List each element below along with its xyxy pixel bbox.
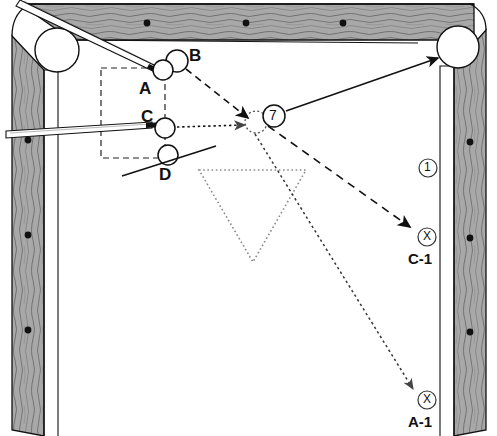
- ball-C[interactable]: [155, 118, 175, 138]
- ball-A[interactable]: [153, 60, 173, 80]
- pool-table-svg: [0, 0, 497, 436]
- diamond-right-1: [467, 139, 474, 146]
- pocket-top-right: [437, 26, 479, 68]
- object-ball-label-7: 7: [269, 108, 277, 122]
- table-cloth: [0, 0, 497, 436]
- diamond-top-1: [144, 20, 151, 27]
- ball-label-B: B: [189, 47, 201, 64]
- marker-label-x-a1: X: [423, 393, 431, 405]
- marker-caption-c1: C-1: [408, 251, 432, 266]
- ball-label-D: D: [159, 166, 171, 183]
- marker-label-one: 1: [424, 161, 431, 173]
- diamond-right-3: [467, 329, 474, 336]
- marker-caption-a1: A-1: [408, 414, 432, 429]
- diamond-right-2: [467, 235, 474, 242]
- diamond-left-1: [25, 137, 32, 144]
- diamond-top-2: [243, 20, 250, 27]
- pool-diagram-root: A B C D 7 1 X C-1 X A-1: [0, 0, 497, 436]
- ball-label-A: A: [139, 80, 151, 97]
- diamond-left-3: [25, 327, 32, 334]
- diamond-left-2: [25, 232, 32, 239]
- diamond-top-3: [340, 20, 347, 27]
- marker-label-x-c1: X: [423, 230, 431, 242]
- ball-label-C: C: [141, 108, 153, 125]
- pocket-top-left: [35, 28, 79, 72]
